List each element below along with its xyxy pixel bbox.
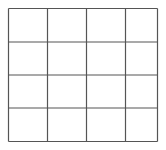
grid-diagram <box>0 0 166 150</box>
